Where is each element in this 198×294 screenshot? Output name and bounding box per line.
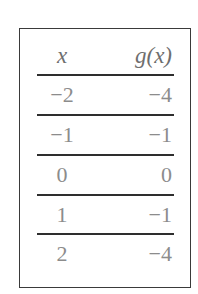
table-row: 0 0 (37, 155, 174, 195)
cell-gx: −4 (102, 234, 174, 274)
cell-gx: 0 (102, 155, 174, 195)
cell-gx: −1 (102, 195, 174, 235)
cell-x: −2 (37, 75, 87, 115)
table-row: 2 −4 (37, 234, 174, 274)
header-gx: g(x) (102, 36, 174, 76)
table-row: −2 −4 (37, 75, 174, 115)
cell-x: −1 (37, 115, 87, 155)
header-x: x (37, 36, 87, 76)
function-table: x g(x) −2 −4 −1 −1 0 0 1 −1 2 −4 (19, 28, 191, 288)
table-row: −1 −1 (37, 115, 174, 155)
cell-x: 2 (37, 234, 87, 274)
cell-x: 1 (37, 195, 87, 235)
cell-gx: −1 (102, 115, 174, 155)
cell-gx: −4 (102, 75, 174, 115)
table-header-row: x g(x) (37, 36, 174, 76)
table-row: 1 −1 (37, 195, 174, 235)
cell-x: 0 (37, 155, 87, 195)
